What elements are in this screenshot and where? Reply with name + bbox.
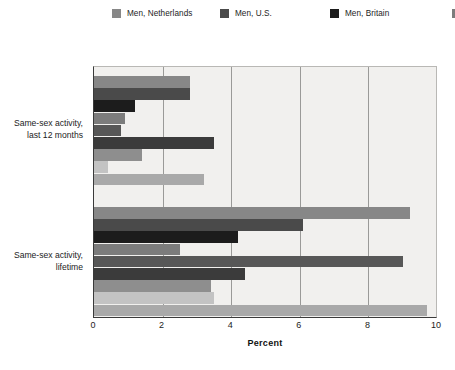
bar[interactable] xyxy=(94,161,108,173)
bar[interactable] xyxy=(94,244,180,256)
category-label-line: Same-sex activity, xyxy=(0,250,83,262)
bar-row xyxy=(94,305,436,317)
x-tick-label: 6 xyxy=(296,320,301,330)
bar-row xyxy=(94,88,436,100)
bar-cluster xyxy=(94,76,436,186)
chart-figure: Men, NetherlandsMen, U.S.Men, BritainMen… xyxy=(0,0,455,370)
x-axis-ticks: 0246810 xyxy=(93,320,437,334)
bar-row xyxy=(94,137,436,149)
legend-item[interactable]: Men, U.S. xyxy=(220,6,330,20)
bar-row xyxy=(94,231,436,243)
bar-row xyxy=(94,280,436,292)
x-tick-label: 0 xyxy=(90,320,95,330)
bar[interactable] xyxy=(94,231,238,243)
bar[interactable] xyxy=(94,219,303,231)
bar-row xyxy=(94,125,436,137)
legend-swatch-icon xyxy=(112,9,121,18)
bar-row xyxy=(94,207,436,219)
bar[interactable] xyxy=(94,280,211,292)
bar-row xyxy=(94,100,436,112)
category-label-line: Same-sex activity, xyxy=(0,118,83,130)
x-tick-label: 4 xyxy=(228,320,233,330)
bar[interactable] xyxy=(94,174,204,186)
bar-row xyxy=(94,219,436,231)
bar[interactable] xyxy=(94,76,190,88)
bar[interactable] xyxy=(94,88,190,100)
bar[interactable] xyxy=(94,256,403,268)
legend-item[interactable]: Men, Netherlands xyxy=(112,6,220,20)
legend-label: Men, Britain xyxy=(345,9,389,18)
category-label: Same-sex activity,lifetime xyxy=(0,250,83,273)
category-label-line: lifetime xyxy=(0,262,83,274)
bar[interactable] xyxy=(94,137,214,149)
x-tick-label: 10 xyxy=(431,320,441,330)
bar[interactable] xyxy=(94,292,214,304)
bar[interactable] xyxy=(94,268,245,280)
bar[interactable] xyxy=(94,207,410,219)
x-tick-label: 2 xyxy=(159,320,164,330)
plot-area xyxy=(93,66,437,318)
bar[interactable] xyxy=(94,125,121,137)
bar[interactable] xyxy=(94,149,142,161)
bar-row xyxy=(94,292,436,304)
x-axis-title: Percent xyxy=(93,338,437,348)
legend-item[interactable]: Men, Britain xyxy=(330,6,452,20)
chart-legend: Men, NetherlandsMen, U.S.Men, BritainMen… xyxy=(112,6,452,20)
bar-row xyxy=(94,256,436,268)
legend-swatch-icon xyxy=(330,9,339,18)
bar-row xyxy=(94,149,436,161)
legend-label: Men, Netherlands xyxy=(127,9,192,18)
bar-row xyxy=(94,268,436,280)
legend-label: Men, U.S. xyxy=(235,9,272,18)
bar[interactable] xyxy=(94,113,125,125)
x-tick-label: 8 xyxy=(365,320,370,330)
bar-row xyxy=(94,161,436,173)
bar-row xyxy=(94,113,436,125)
legend-swatch-icon xyxy=(220,9,229,18)
bar[interactable] xyxy=(94,305,427,317)
bar-row xyxy=(94,76,436,88)
category-label: Same-sex activity,last 12 months xyxy=(0,118,83,141)
category-label-line: last 12 months xyxy=(0,130,83,142)
bar-row xyxy=(94,244,436,256)
bar[interactable] xyxy=(94,100,135,112)
bar-row xyxy=(94,174,436,186)
bar-cluster xyxy=(94,207,436,317)
